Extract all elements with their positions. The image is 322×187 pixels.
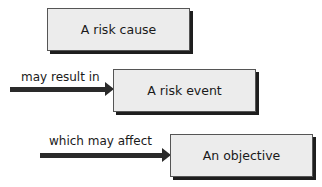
node-label: A risk event	[147, 83, 221, 98]
edge-label-which-may-affect: which may affect	[49, 134, 152, 148]
node-label: An objective	[203, 148, 281, 163]
node-label: A risk cause	[81, 22, 157, 37]
node-risk-cause: A risk cause	[47, 8, 190, 51]
node-objective: An objective	[170, 134, 313, 177]
arrow-icon	[40, 153, 163, 158]
node-risk-event: A risk event	[113, 69, 256, 112]
edge-label-may-result-in: may result in	[21, 70, 100, 84]
arrow-icon	[10, 87, 106, 92]
